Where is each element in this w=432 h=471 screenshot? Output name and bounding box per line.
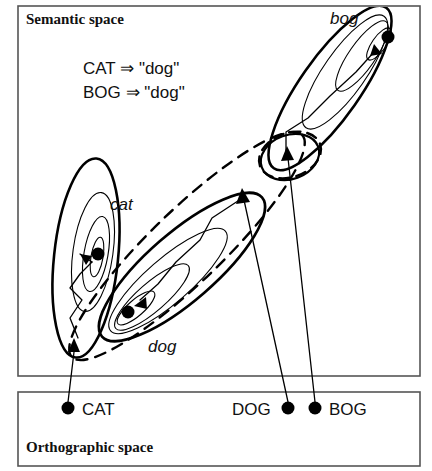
mapping-line-1: CAT ⇒ "dog"	[83, 59, 179, 78]
cat-basin-label: cat	[110, 195, 134, 214]
orthographic-label-cat: CAT	[82, 400, 115, 419]
orthographic-space-title: Orthographic space	[26, 439, 153, 455]
semantic-space-panel	[18, 6, 420, 376]
orthographic-label-bog: BOG	[329, 400, 367, 419]
page-title: Semantic space	[26, 11, 124, 27]
dog-attractor-dot	[122, 306, 135, 319]
orthographic-dot-dog[interactable]	[282, 402, 295, 415]
orthographic-dot-cat[interactable]	[62, 402, 75, 415]
orthographic-label-dog: DOG	[232, 400, 271, 419]
attractor-diagram: Semantic space Orthographic space CAT ⇒ …	[0, 0, 432, 471]
bog-attractor-dot	[382, 31, 395, 44]
mapping-line-2: BOG ⇒ "dog"	[83, 83, 185, 102]
dog-basin-label: dog	[148, 337, 177, 356]
orthographic-dot-bog[interactable]	[309, 402, 322, 415]
cat-attractor-dot	[92, 248, 105, 261]
bog-basin-label: bog	[330, 9, 359, 28]
